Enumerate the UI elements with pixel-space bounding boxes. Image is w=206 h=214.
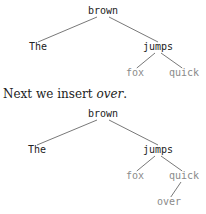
edge-quick-over (171, 182, 181, 197)
edge-brown-the (38, 17, 97, 42)
tree-node-jumps: jumps (143, 144, 173, 156)
tree-diagram-canvas: brownThejumpsfoxquick Next we insert ove… (0, 0, 206, 214)
tree-node-jumps: jumps (143, 41, 173, 53)
edge-brown-the (37, 120, 97, 145)
tree-node-quick: quick (169, 170, 199, 182)
edge-jumps-quick (161, 53, 182, 68)
edge-jumps-fox (137, 53, 155, 68)
tree-node-fox: fox (126, 67, 144, 79)
caption-text: Next we insert over. (3, 87, 127, 101)
tree-node-fox: fox (126, 170, 144, 182)
tree-node-over: over (157, 196, 181, 208)
tree-node-brown: brown (88, 108, 118, 120)
tree-node-quick: quick (169, 67, 199, 79)
tree-node-the: The (28, 144, 46, 156)
edge-jumps-quick (161, 156, 182, 171)
edge-brown-jumps (109, 17, 158, 42)
edge-brown-jumps (109, 120, 158, 145)
tree-node-the: The (29, 41, 47, 53)
tree-node-brown: brown (88, 5, 118, 17)
caption-emphasis: over (96, 87, 123, 101)
caption-suffix: . (123, 87, 127, 101)
caption-prefix: Next we insert (3, 87, 96, 101)
edge-jumps-fox (137, 156, 155, 171)
